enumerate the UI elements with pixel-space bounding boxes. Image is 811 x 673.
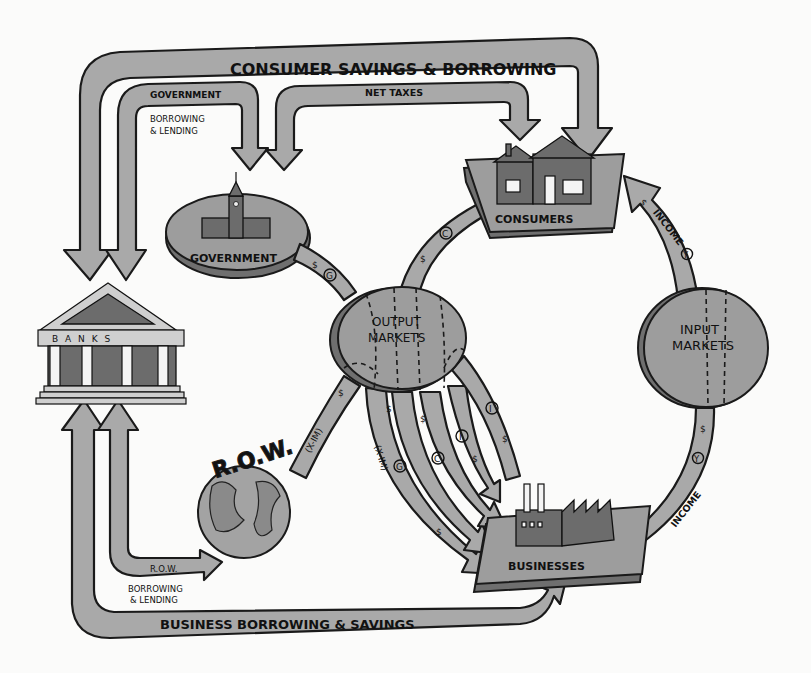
output-i2-symbol: I — [489, 404, 492, 414]
banks-node: B A N K S — [36, 283, 186, 404]
consumption-currency: $ — [420, 254, 426, 264]
row-borrowing-label-3: & LENDING — [130, 595, 178, 605]
net-taxes-flow: NET TAXES — [266, 82, 540, 170]
output-c-currency: $ — [420, 414, 426, 424]
output-markets-label-1: OUTPUT — [372, 315, 422, 329]
consumer-savings-label: CONSUMER SAVINGS & BORROWING — [230, 60, 556, 79]
gov-borrowing-label-1: GOVERNMENT — [150, 90, 222, 100]
row-borrowing-label-1: R.O.W. — [150, 564, 177, 574]
output-markets-node: OUTPUT MARKETS — [330, 287, 466, 392]
income-business-currency: $ — [700, 424, 706, 434]
output-xim-currency: $ — [436, 527, 442, 537]
gov-borrowing-label-3: & LENDING — [150, 126, 198, 136]
income-business-symbol: Y — [693, 454, 700, 464]
output-i2-currency: $ — [502, 434, 508, 444]
gov-borrowing-label-2: BORROWING — [150, 114, 205, 124]
net-exports-row-flow: (X-IM) $ — [290, 376, 360, 478]
output-g-currency: $ — [386, 404, 392, 414]
business-borrowing-label: BUSINESS BORROWING & SAVINGS — [160, 617, 415, 632]
government-spending-flow: $ G — [294, 244, 356, 300]
output-markets-label-2: MARKETS — [368, 331, 425, 345]
consumers-node: CONSUMERS — [464, 136, 624, 238]
income-to-consumers-flow: $ INCOME Y — [624, 176, 698, 300]
input-markets-label-1: INPUT — [680, 322, 719, 337]
income-consumers-symbol: Y — [682, 250, 689, 260]
row-borrowing-label-2: BORROWING — [128, 584, 183, 594]
output-g-symbol: G — [396, 462, 403, 472]
consumption-flow: $ C — [398, 204, 484, 300]
gov-spending-symbol: G — [326, 271, 333, 281]
government-node: GOVERNMENT — [166, 172, 310, 278]
businesses-label: BUSINESSES — [508, 560, 585, 573]
input-markets-node: INPUT MARKETS — [638, 288, 768, 408]
output-c-symbol: C — [434, 454, 440, 464]
output-i1-symbol: I — [459, 432, 462, 442]
row-node: R.O.W. — [198, 434, 296, 558]
net-taxes-label: NET TAXES — [365, 87, 423, 98]
circular-flow-diagram: CONSUMER SAVINGS & BORROWING GOVERNMENT … — [0, 0, 811, 673]
gov-spending-currency: $ — [312, 260, 318, 270]
output-i1-currency: $ — [472, 454, 478, 464]
input-markets-label-2: MARKETS — [672, 338, 734, 353]
net-exports-row-currency: $ — [338, 388, 344, 398]
government-label: GOVERNMENT — [190, 252, 277, 265]
banks-label: B A N K S — [52, 334, 112, 344]
consumption-symbol: C — [442, 229, 448, 239]
consumers-label: CONSUMERS — [495, 213, 573, 226]
